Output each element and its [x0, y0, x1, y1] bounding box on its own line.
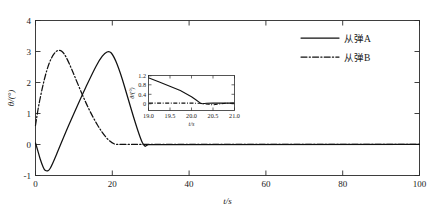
inset-y-tick-label: 1.2 — [138, 72, 146, 79]
inset-x-tick-label: 20.0 — [186, 112, 197, 119]
inset-y-tick-label: 0.8 — [138, 81, 146, 88]
main-y-tick-labels: -1 0 1 2 3 4 — [24, 16, 32, 181]
inset-x-tick-label: 19.5 — [165, 112, 176, 119]
legend-label-congdan-b: 从弹B — [344, 52, 370, 63]
inset-y-tick-label: 0.4 — [138, 91, 146, 98]
chart-canvas: 0 20 40 60 80 100 -1 0 1 2 — [0, 0, 441, 214]
y-tick-label: 1 — [27, 109, 32, 119]
x-tick-label: 40 — [185, 179, 195, 189]
inset-axes: 19.0 19.5 20.0 20.5 21.0 0 0.4 0.8 — [128, 72, 240, 127]
y-axis-title: θ/(°) — [6, 90, 16, 107]
inset-y-tick-labels: 0 0.4 0.8 1.2 — [138, 72, 146, 107]
series-line-congdan-a — [36, 52, 420, 171]
y-tick-label: 4 — [27, 16, 32, 26]
inset-y-tick-label: 0 — [143, 100, 146, 107]
inset-x-tick-labels: 19.0 19.5 20.0 20.5 21.0 — [143, 112, 240, 119]
chart-figure: 0 20 40 60 80 100 -1 0 1 2 — [0, 0, 441, 214]
y-tick-label: -1 — [24, 171, 32, 181]
x-tick-label: 0 — [33, 179, 38, 189]
x-axis-title: t/s — [223, 196, 232, 206]
x-tick-label: 100 — [413, 179, 427, 189]
inset-x-axis-title: t/s — [189, 120, 195, 127]
inset-y-axis-title: θ/(°) — [128, 87, 136, 98]
x-tick-label: 20 — [108, 179, 118, 189]
legend: 从弹A 从弹B — [301, 33, 371, 63]
inset-x-tick-label: 20.5 — [208, 112, 219, 119]
y-tick-label: 3 — [27, 47, 32, 57]
inset-x-tick-label: 21.0 — [229, 112, 240, 119]
x-tick-label: 80 — [338, 179, 348, 189]
y-tick-label: 2 — [27, 78, 32, 88]
legend-label-congdan-a: 从弹A — [344, 33, 371, 44]
y-tick-label: 0 — [27, 140, 32, 150]
inset-x-tick-label: 19.0 — [143, 112, 154, 119]
x-tick-label: 60 — [261, 179, 271, 189]
main-x-tick-labels: 0 20 40 60 80 100 — [33, 179, 427, 189]
